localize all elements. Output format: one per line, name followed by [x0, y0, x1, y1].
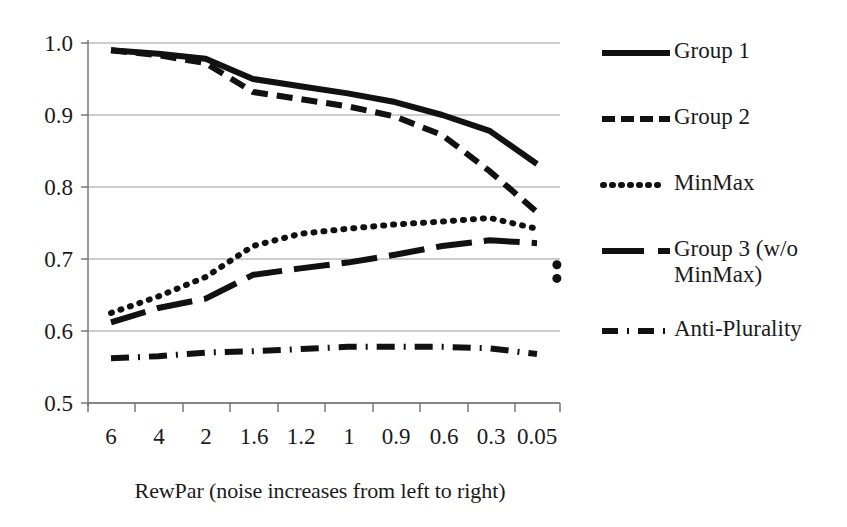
legend-item-group-2[interactable]: Group 2 [600, 104, 750, 130]
y-tick-labels: 1.0 0.9 0.8 0.7 0.6 0.5 [44, 31, 73, 416]
legend-label-anti-plurality: Anti-Plurality [672, 316, 802, 342]
series-line-group-1 [111, 50, 537, 164]
x-label-7: 0.6 [430, 424, 459, 449]
y-tick-marks [81, 43, 88, 403]
x-label-2: 2 [200, 424, 212, 449]
legend-label-minmax: MinMax [672, 170, 755, 196]
y-label-0.8: 0.8 [44, 175, 73, 200]
x-axis-caption: RewPar (noise increases from left to rig… [75, 478, 565, 504]
dashed-line-sample [600, 108, 672, 130]
data-series-layer [111, 50, 561, 358]
longdash-line-sample [600, 240, 672, 262]
y-label-1.0: 1.0 [44, 31, 73, 56]
series-endpoint-marker [552, 260, 561, 269]
x-label-9: 0.05 [517, 424, 557, 449]
y-label-0.7: 0.7 [44, 247, 73, 272]
chart-legend: Group 1 Group 2 MinMax Group 3 (w/o MinM… [600, 24, 847, 354]
legend-item-group-1[interactable]: Group 1 [600, 38, 750, 64]
x-tick-labels: 6 4 2 1.6 1.2 1 0.9 0.6 0.3 0.05 [105, 424, 557, 449]
x-label-8: 0.3 [477, 424, 506, 449]
legend-label-group-3: Group 3 (w/o MinMax) [672, 236, 798, 288]
y-label-0.5: 0.5 [44, 391, 73, 416]
solid-line-sample [600, 42, 672, 64]
legend-item-minmax[interactable]: MinMax [600, 170, 755, 196]
x-label-6: 0.9 [382, 424, 411, 449]
x-label-0: 6 [105, 424, 117, 449]
legend-item-anti-plurality[interactable]: Anti-Plurality [600, 316, 802, 342]
dashdot-line-sample [600, 320, 672, 342]
x-label-4: 1.2 [287, 424, 316, 449]
x-label-5: 1 [343, 424, 355, 449]
dotted-line-sample [600, 174, 672, 196]
line-chart-svg: 1.0 0.9 0.8 0.7 0.6 0.5 6 4 2 1.6 1.2 1 … [0, 0, 600, 470]
y-label-0.9: 0.9 [44, 103, 73, 128]
x-tick-marks [88, 403, 560, 412]
legend-label-group-1: Group 1 [672, 38, 750, 64]
series-line-anti-plurality [111, 347, 537, 359]
x-label-1: 4 [153, 424, 165, 449]
series-line-group-2 [111, 50, 537, 212]
x-label-3: 1.6 [240, 424, 269, 449]
series-endpoint-marker [552, 274, 561, 283]
legend-item-group-3[interactable]: Group 3 (w/o MinMax) [600, 236, 798, 288]
chart-figure: 1.0 0.9 0.8 0.7 0.6 0.5 6 4 2 1.6 1.2 1 … [0, 0, 847, 527]
series-line-group-3-(w/o-minmax) [111, 240, 537, 322]
plot-area: 1.0 0.9 0.8 0.7 0.6 0.5 6 4 2 1.6 1.2 1 … [0, 0, 600, 527]
legend-label-group-2: Group 2 [672, 104, 750, 130]
gridlines [88, 43, 560, 403]
y-label-0.6: 0.6 [44, 319, 73, 344]
